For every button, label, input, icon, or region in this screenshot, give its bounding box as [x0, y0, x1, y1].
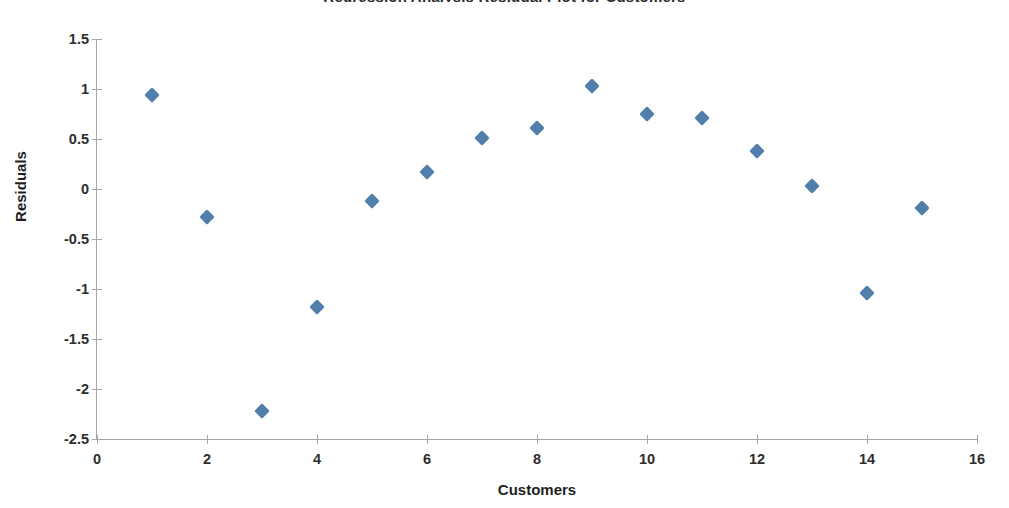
y-axis-tick-label: -1 — [29, 282, 89, 296]
data-point — [254, 403, 270, 419]
x-axis-tick — [537, 435, 538, 444]
x-axis-tick — [757, 435, 758, 444]
data-point — [639, 106, 655, 122]
x-axis-tick-label: 12 — [737, 451, 777, 467]
x-axis-tick-label: 4 — [297, 451, 337, 467]
x-axis-tick-label: 2 — [187, 451, 227, 467]
data-point — [694, 110, 710, 126]
x-axis-tick — [207, 435, 208, 444]
data-point — [529, 120, 545, 136]
x-axis-tick-label: 14 — [847, 451, 887, 467]
y-axis-tick — [92, 289, 102, 290]
y-axis-tick — [92, 389, 102, 390]
data-point — [584, 78, 600, 94]
data-point — [474, 130, 490, 146]
y-axis-tick-label: 1 — [29, 82, 89, 96]
x-axis-tick — [317, 435, 318, 444]
data-point — [309, 299, 325, 315]
y-axis-tick-label: 1.5 — [29, 32, 89, 46]
y-axis-tick — [92, 139, 102, 140]
data-point — [199, 209, 215, 225]
x-axis-title: Customers — [97, 481, 977, 498]
y-axis-tick-label: -2 — [29, 382, 89, 396]
y-axis-tick-label: 0.5 — [29, 132, 89, 146]
data-point — [749, 143, 765, 159]
x-axis-tick — [977, 435, 978, 444]
y-axis-tick — [92, 339, 102, 340]
data-point — [364, 193, 380, 209]
y-axis-tick-label: 0 — [29, 182, 89, 196]
y-axis-title: Residuals — [12, 127, 29, 247]
plot-area — [97, 39, 977, 439]
x-axis-tick — [867, 435, 868, 444]
data-point — [804, 178, 820, 194]
x-axis-tick-label: 6 — [407, 451, 447, 467]
x-axis-tick — [97, 435, 98, 444]
x-axis-tick-label: 8 — [517, 451, 557, 467]
x-axis-tick-label: 10 — [627, 451, 667, 467]
data-point — [419, 164, 435, 180]
residual-plot-figure: Regression Analysis Residual Plot for Cu… — [0, 0, 1009, 508]
data-point — [144, 87, 160, 103]
y-axis-tick — [92, 189, 102, 190]
x-axis-tick — [647, 435, 648, 444]
y-axis-tick — [92, 239, 102, 240]
x-axis-tick — [427, 435, 428, 444]
x-axis-tick-label: 16 — [957, 451, 997, 467]
y-axis-tick-label: -1.5 — [29, 332, 89, 346]
y-axis-tick — [92, 39, 102, 40]
y-axis-tick — [92, 89, 102, 90]
data-point — [859, 285, 875, 301]
data-point — [914, 200, 930, 216]
y-axis-tick-label: -2.5 — [29, 432, 89, 446]
y-axis-tick-label: -0.5 — [29, 232, 89, 246]
x-axis-tick-label: 0 — [77, 451, 117, 467]
chart-title: Regression Analysis Residual Plot for Cu… — [0, 0, 1009, 2]
